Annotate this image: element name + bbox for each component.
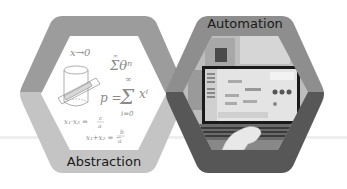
sum-bottom: i=0 (121, 110, 134, 118)
sum-symbol: Σ (119, 85, 135, 109)
p-equals: p = (100, 91, 122, 105)
automation-hexagon: Automation (160, 16, 330, 173)
automation-label: Automation (207, 16, 283, 31)
abstraction-hexagon: x→0 ∞ Σθⁿ p = ∞ Σ i=0 xⁱ x₁·x₂ = c a x₁+… (20, 16, 186, 173)
vieta-product-den: a (98, 122, 102, 129)
series-formula: Σθⁿ (109, 58, 132, 73)
vieta-sum-lhs: x₁+x₂ = − (86, 134, 122, 142)
sum-term: xⁱ (139, 87, 149, 101)
hexagon-diagram: x→0 ∞ Σθⁿ p = ∞ Σ i=0 xⁱ x₁·x₂ = c a x₁+… (0, 0, 347, 189)
abstraction-label: Abstraction (67, 154, 141, 169)
limit-formula: x→0 (70, 47, 91, 58)
vieta-product-lhs: x₁·x₂ = (64, 118, 88, 126)
sum-top: ∞ (125, 75, 132, 84)
vieta-sum-den: a (118, 137, 122, 144)
vieta-sum-num: b (120, 128, 124, 135)
diagram-canvas: x→0 ∞ Σθⁿ p = ∞ Σ i=0 xⁱ x₁·x₂ = c a x₁+… (0, 0, 347, 189)
